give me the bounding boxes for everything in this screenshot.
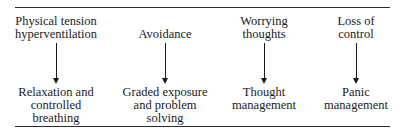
cause-label: Worrying thoughts [224, 15, 304, 41]
cause-label: Avoidance [113, 28, 217, 41]
cause-label: Physical tension hyperventilation [2, 15, 110, 41]
down-arrow-icon [165, 43, 166, 80]
column-worrying-thoughts: Worrying thoughts Thought management [224, 0, 304, 133]
column-physical-tension: Physical tension hyperventilation Relaxa… [2, 0, 110, 133]
down-arrow-icon [264, 43, 265, 80]
down-arrow-icon [56, 43, 57, 80]
treatment-label: Thought management [224, 86, 304, 112]
treatment-label: Relaxation and controlled breathing [2, 86, 110, 125]
cause-label: Loss of control [316, 15, 396, 41]
down-arrow-icon [356, 43, 357, 80]
treatment-label: Panic management [316, 86, 396, 112]
column-avoidance: Avoidance Graded exposure and problem so… [113, 0, 217, 133]
bottom-rule [15, 126, 390, 127]
column-loss-of-control: Loss of control Panic management [316, 0, 396, 133]
treatment-label: Graded exposure and problem solving [113, 86, 217, 125]
